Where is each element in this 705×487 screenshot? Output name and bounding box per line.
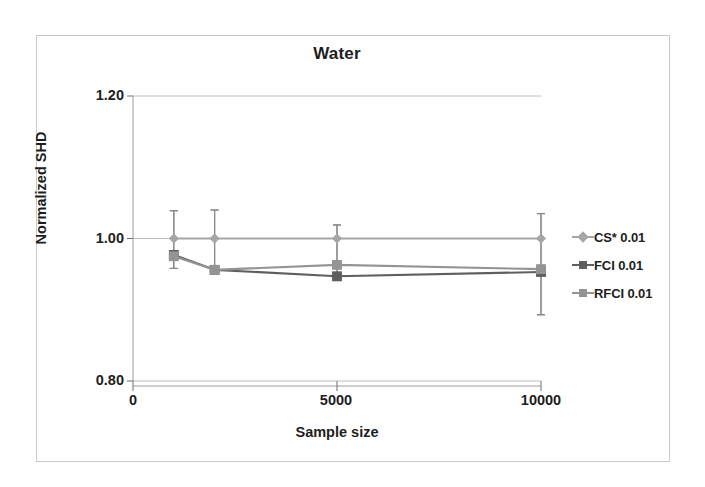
legend-label: RFCI 0.01	[594, 286, 652, 301]
square-marker-icon	[572, 258, 594, 272]
figure-container: Water Normalized SHD Sample size 1.20 1.…	[0, 0, 705, 487]
square-marker-icon	[572, 286, 594, 300]
legend-item-rfci[interactable]: RFCI 0.01	[572, 279, 668, 307]
legend-item-fci[interactable]: FCI 0.01	[572, 251, 668, 279]
legend-item-cs[interactable]: CS* 0.01	[572, 223, 668, 251]
diamond-marker-icon	[572, 230, 594, 244]
axis-lines	[127, 96, 541, 391]
chart-legend: CS* 0.01 FCI 0.01 RFCI 0.01	[572, 223, 668, 307]
legend-label: FCI 0.01	[594, 258, 643, 273]
legend-label: CS* 0.01	[594, 230, 645, 245]
series-layer	[169, 210, 545, 315]
